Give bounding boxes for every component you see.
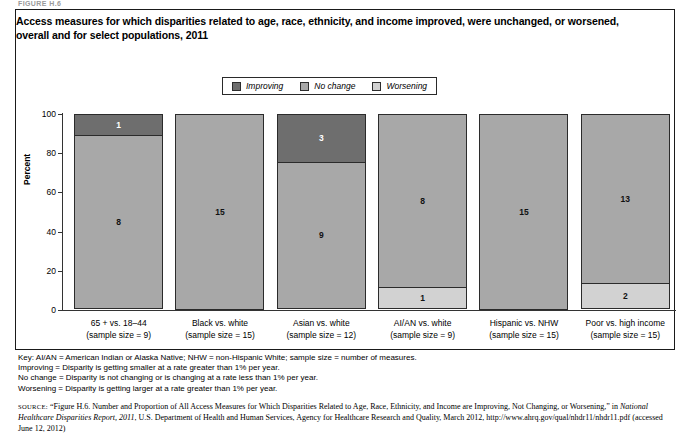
x-axis-line <box>62 310 676 311</box>
plot-area: Percent 020406080100 1815398115132 65 + … <box>0 0 689 341</box>
x-axis-label-category: AI/AN vs. white <box>372 318 473 330</box>
bar-segment-value: 8 <box>420 197 425 206</box>
stacked-bar[interactable]: 15 <box>175 114 264 310</box>
figure-page: FIGURE H.6 Access measures for which dis… <box>0 0 689 443</box>
x-axis-label-sample-size: (sample size = 15) <box>575 330 676 342</box>
bar-segment-nochange[interactable]: 9 <box>277 162 366 309</box>
x-axis-label-sample-size: (sample size = 12) <box>271 330 372 342</box>
bar-slot: 15 <box>473 114 574 310</box>
bar-slot: 81 <box>372 114 473 310</box>
x-axis-label-category: Asian vs. white <box>271 318 372 330</box>
bar-segment-improving[interactable]: 1 <box>74 114 163 136</box>
bar-segment-value: 3 <box>319 134 324 143</box>
y-axis-ticks: 020406080100 <box>36 109 62 315</box>
key-note-line: Improving = Disparity is getting smaller… <box>18 363 658 373</box>
x-axis-label: AI/AN vs. white(sample size = 9) <box>372 318 473 341</box>
y-tick-label-80: 80 <box>47 148 56 158</box>
bar-slot: 132 <box>575 114 676 310</box>
bar-slot: 39 <box>271 114 372 310</box>
bar-segment-value: 2 <box>623 292 628 301</box>
key-note-line: Key: AI/AN = American Indian or Alaska N… <box>18 353 658 363</box>
y-tick-label-60: 60 <box>47 187 56 197</box>
bar-segment-worsening[interactable]: 1 <box>378 287 467 309</box>
bar-segment-value: 13 <box>621 195 630 204</box>
y-tick-label-40: 40 <box>47 227 56 237</box>
y-axis-label: Percent <box>22 154 32 185</box>
key-note-line: Worsening = Disparity is getting larger … <box>18 384 658 394</box>
bar-segment-worsening[interactable]: 2 <box>581 283 670 309</box>
x-axis-label: 65 + vs. 18–44(sample size = 9) <box>68 318 169 341</box>
bar-segment-value: 1 <box>420 294 425 303</box>
stacked-bar[interactable]: 81 <box>378 114 467 310</box>
bar-segment-value: 15 <box>215 208 224 217</box>
key-note-line: No change = Disparity is not changing or… <box>18 373 658 383</box>
bar-segment-nochange[interactable]: 15 <box>175 114 264 310</box>
bar-segment-nochange[interactable]: 8 <box>378 114 467 288</box>
source-lead: source: <box>18 403 48 410</box>
x-axis-label-sample-size: (sample size = 9) <box>68 330 169 342</box>
bar-group: 1815398115132 <box>68 114 676 310</box>
y-tick-label-20: 20 <box>47 266 56 276</box>
bar-segment-nochange[interactable]: 15 <box>479 114 568 310</box>
bar-segment-value: 15 <box>519 208 528 217</box>
stacked-bar[interactable]: 132 <box>581 114 670 310</box>
x-axis-label-category: Black vs. white <box>169 318 270 330</box>
y-tick-label-0: 0 <box>51 305 56 315</box>
y-tick-label-100: 100 <box>42 109 56 119</box>
x-axis-label-category: 65 + vs. 18–44 <box>68 318 169 330</box>
x-axis-label-sample-size: (sample size = 15) <box>473 330 574 342</box>
stacked-bar[interactable]: 15 <box>479 114 568 310</box>
x-axis-label-sample-size: (sample size = 9) <box>372 330 473 342</box>
bar-segment-improving[interactable]: 3 <box>277 114 366 163</box>
x-axis-label-sample-size: (sample size = 15) <box>169 330 270 342</box>
x-axis-label: Black vs. white(sample size = 15) <box>169 318 270 341</box>
x-axis-label: Asian vs. white(sample size = 12) <box>271 318 372 341</box>
x-axis-label: Hispanic vs. NHW(sample size = 15) <box>473 318 574 341</box>
stacked-bar[interactable]: 39 <box>277 114 366 310</box>
source-text-part1: “Figure H.6. Number and Proportion of Al… <box>50 402 620 411</box>
x-axis-labels: 65 + vs. 18–44(sample size = 9)Black vs.… <box>68 318 676 341</box>
stacked-bar[interactable]: 18 <box>74 114 163 310</box>
y-axis-line <box>62 113 63 311</box>
bar-slot: 15 <box>169 114 270 310</box>
x-axis-label-category: Poor vs. high income <box>575 318 676 330</box>
bar-slot: 18 <box>68 114 169 310</box>
source-citation: source: “Figure H.6. Number and Proporti… <box>18 401 673 434</box>
x-axis-label: Poor vs. high income(sample size = 15) <box>575 318 676 341</box>
key-notes: Key: AI/AN = American Indian or Alaska N… <box>18 353 658 394</box>
bar-segment-value: 1 <box>116 121 121 130</box>
x-axis-label-category: Hispanic vs. NHW <box>473 318 574 330</box>
bar-segment-value: 9 <box>319 231 324 240</box>
bar-segment-nochange[interactable]: 8 <box>74 135 163 309</box>
bar-segment-nochange[interactable]: 13 <box>581 114 670 284</box>
bar-segment-value: 8 <box>116 218 121 227</box>
